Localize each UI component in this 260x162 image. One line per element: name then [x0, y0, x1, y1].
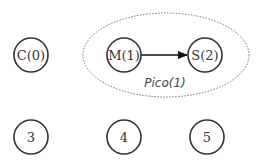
piconet-diagram: Pico(1) C(0) M(1) S(2) 3 4 5 — [0, 0, 260, 162]
node-label: 4 — [120, 130, 128, 145]
node-s2[interactable]: S(2) — [188, 38, 222, 72]
node-label: M(1) — [108, 48, 140, 63]
node-label: S(2) — [191, 48, 218, 63]
node-5[interactable]: 5 — [190, 120, 224, 154]
node-4[interactable]: 4 — [107, 120, 141, 154]
node-3[interactable]: 3 — [14, 120, 48, 154]
node-m1[interactable]: M(1) — [107, 38, 141, 72]
node-label: 3 — [27, 130, 35, 145]
pico-group-label: Pico(1) — [144, 76, 186, 90]
node-label: C(0) — [17, 48, 45, 63]
node-c0[interactable]: C(0) — [14, 38, 48, 72]
node-label: 5 — [203, 130, 211, 145]
